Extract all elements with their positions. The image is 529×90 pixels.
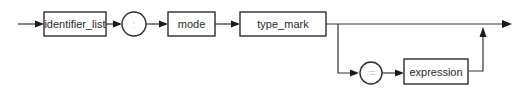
node-label: :=: [367, 68, 376, 79]
arrow-icon: [35, 21, 44, 28]
arrow-icon: [350, 70, 359, 77]
end-arrow-icon: [502, 20, 512, 28]
node-label: mode: [178, 18, 206, 30]
node-label: identifier_list: [44, 18, 105, 30]
node-label: type_mark: [257, 18, 309, 30]
up-arrow-icon: [480, 27, 487, 37]
syntax-diagram: identifier_list : mode type_mark := expr…: [0, 0, 529, 90]
arrow-icon: [231, 21, 240, 28]
arrow-icon: [113, 21, 122, 28]
node-type-mark: type_mark: [240, 12, 326, 36]
arrow-icon: [159, 21, 168, 28]
node-colon: :: [122, 12, 146, 36]
node-identifier-list: identifier_list: [44, 12, 106, 36]
node-assign: :=: [360, 62, 382, 84]
node-label: expression: [409, 66, 462, 78]
node-label: :: [133, 19, 136, 30]
branch-line: [338, 24, 353, 73]
node-mode: mode: [168, 12, 215, 36]
return-line: [468, 36, 483, 71]
node-expression: expression: [404, 59, 468, 84]
arrow-icon: [395, 70, 404, 77]
